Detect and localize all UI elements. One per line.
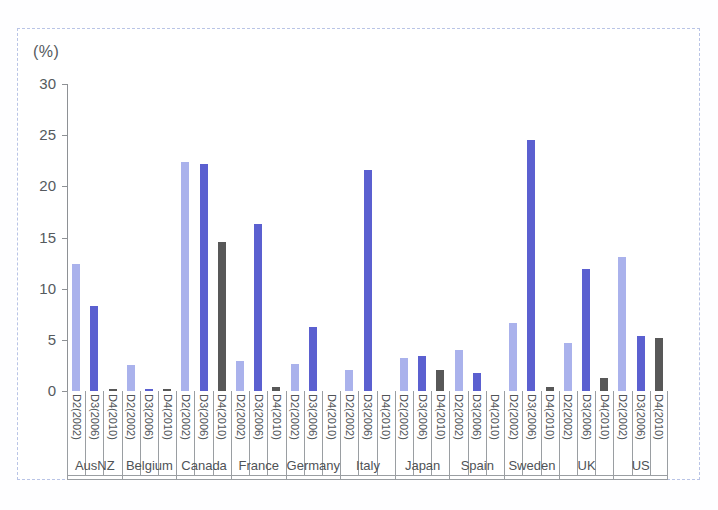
bar-italy-d32006 <box>364 170 372 391</box>
bar-france-d32006 <box>254 224 262 391</box>
y-axis-tick-20: 20 <box>62 186 68 187</box>
country-cell-japan: Japan <box>395 452 450 480</box>
y-axis-tick-label: 5 <box>48 331 56 348</box>
country-cell-germany: Germany <box>286 452 341 480</box>
country-label: US <box>632 458 650 473</box>
bar-uk-d32006 <box>582 269 590 391</box>
country-cell-canada: Canada <box>176 452 231 480</box>
y-axis-tick-label: 30 <box>39 75 56 92</box>
x-tick-label: D3(2006) <box>526 394 538 440</box>
country-cell-us: US <box>613 452 668 480</box>
x-tick-label: D2(2002) <box>617 394 629 440</box>
bar-germany-d32006 <box>309 327 317 391</box>
bar-canada-d42010 <box>218 242 226 391</box>
country-label: AusNZ <box>75 458 115 473</box>
x-tick-label: D2(2002) <box>180 394 192 440</box>
x-tick-label: D4(2010) <box>599 394 611 440</box>
x-tick-label: D2(2002) <box>289 394 301 440</box>
country-cell-italy: Italy <box>340 452 395 480</box>
x-tick-label: D3(2006) <box>635 394 647 440</box>
x-tick-label: D4(2010) <box>653 394 665 440</box>
bar-japan-d42010 <box>436 370 444 391</box>
bar-sweden-d22002 <box>509 323 517 391</box>
bar-japan-d32006 <box>418 356 426 391</box>
bar-us-d22002 <box>618 257 626 391</box>
country-label: Spain <box>461 458 494 473</box>
x-tick-label: D2(2002) <box>125 394 137 440</box>
x-tick-label: D4(2010) <box>326 394 338 440</box>
x-tick-label: D2(2002) <box>71 394 83 440</box>
x-tick-label: D3(2006) <box>253 394 265 440</box>
y-axis-tick-label: 0 <box>48 382 56 399</box>
bar-canada-d32006 <box>200 164 208 391</box>
y-axis-tick-label: 20 <box>39 177 56 194</box>
bar-canada-d22002 <box>181 162 189 391</box>
country-label: Germany <box>287 458 340 473</box>
country-label: Italy <box>356 458 380 473</box>
bar-france-d22002 <box>236 361 244 391</box>
x-axis-category-labels: AusNZBelgiumCanadaFranceGermanyItalyJapa… <box>67 452 668 480</box>
country-label: Belgium <box>126 458 173 473</box>
country-label: Sweden <box>508 458 555 473</box>
country-cell-france: France <box>231 452 286 480</box>
bar-uk-d42010 <box>600 378 608 391</box>
x-tick-label: D3(2006) <box>471 394 483 440</box>
bar-germany-d22002 <box>291 364 299 391</box>
y-axis-tick-label: 25 <box>39 126 56 143</box>
x-tick-label: D3(2006) <box>143 394 155 440</box>
bar-us-d42010 <box>655 338 663 391</box>
country-label: UK <box>578 458 596 473</box>
x-tick-label: D4(2010) <box>380 394 392 440</box>
y-axis-unit-label: (%) <box>33 43 59 61</box>
x-tick-label: D3(2006) <box>417 394 429 440</box>
x-tick-label: D4(2010) <box>435 394 447 440</box>
x-tick-label: D4(2010) <box>271 394 283 440</box>
bar-ausnz-d22002 <box>72 264 80 391</box>
x-tick-label: D3(2006) <box>198 394 210 440</box>
y-axis-tick-label: 15 <box>39 229 56 246</box>
country-label: France <box>238 458 278 473</box>
x-tick-label: D4(2010) <box>162 394 174 440</box>
country-label: Canada <box>181 458 227 473</box>
bar-sweden-d32006 <box>527 140 535 391</box>
x-tick-label: D2(2002) <box>453 394 465 440</box>
x-tick-label: D2(2002) <box>344 394 356 440</box>
x-tick-label: D2(2002) <box>398 394 410 440</box>
country-cell-uk: UK <box>559 452 614 480</box>
country-cell-ausnz: AusNZ <box>67 452 122 480</box>
bar-japan-d22002 <box>400 358 408 391</box>
bar-spain-d32006 <box>473 373 481 391</box>
y-axis-tick-25: 25 <box>62 135 68 136</box>
country-cell-belgium: Belgium <box>122 452 177 480</box>
bar-us-d32006 <box>637 336 645 391</box>
x-tick-label: D4(2010) <box>489 394 501 440</box>
x-tick-label: D3(2006) <box>89 394 101 440</box>
x-tick-label: D2(2002) <box>508 394 520 440</box>
bar-italy-d22002 <box>345 370 353 391</box>
x-tick-label: D4(2010) <box>544 394 556 440</box>
x-tick-label: D3(2006) <box>581 394 593 440</box>
country-label: Japan <box>405 458 440 473</box>
chart-figure: (%) 051015202530 D2(2002)D3(2006)D4(2010… <box>0 0 718 510</box>
y-axis-tick-30: 30 <box>62 84 68 85</box>
bar-ausnz-d32006 <box>90 306 98 391</box>
y-axis-tick-label: 10 <box>39 280 56 297</box>
x-tick-label: D2(2002) <box>235 394 247 440</box>
x-tick-label: D4(2010) <box>216 394 228 440</box>
x-tick-label: D2(2002) <box>562 394 574 440</box>
country-cell-spain: Spain <box>449 452 504 480</box>
y-axis-tick-10: 10 <box>62 289 68 290</box>
bar-uk-d22002 <box>564 343 572 391</box>
country-cell-sweden: Sweden <box>504 452 559 480</box>
plot-area: 051015202530 <box>67 84 668 391</box>
y-axis-tick-15: 15 <box>62 238 68 239</box>
x-tick-label: D4(2010) <box>107 394 119 440</box>
x-tick-label: D3(2006) <box>307 394 319 440</box>
x-tick-label: D3(2006) <box>362 394 374 440</box>
bar-spain-d22002 <box>455 350 463 391</box>
bar-belgium-d22002 <box>127 365 135 391</box>
y-axis-tick-5: 5 <box>62 340 68 341</box>
